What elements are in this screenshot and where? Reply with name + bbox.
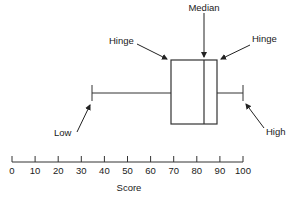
low-arrow [77,105,90,132]
axis-tick-label: 100 [235,165,251,176]
hinge-left-label: Hinge [109,35,134,46]
axis-tick-label: 0 [9,165,14,176]
axis-tick-label: 90 [215,165,226,176]
axis-tick-label: 40 [99,165,110,176]
axis-title: Score [117,182,142,193]
hinge-right-label: Hinge [252,33,277,44]
low-label: Low [54,127,72,138]
axis-tick-label: 20 [53,165,64,176]
axis-tick-label: 60 [145,165,156,176]
box-plot-diagram: Median Hinge Hinge Low High 010203040506… [0,0,291,199]
axis-tick-label: 10 [30,165,41,176]
hinge-left-arrow [137,44,167,59]
high-label: High [266,126,286,137]
axis-tick-label: 70 [168,165,179,176]
high-arrow [246,104,264,128]
axis-tick-label: 50 [122,165,133,176]
hinge-right-arrow [221,45,250,59]
axis-tick-labels: 0102030405060708090100 [9,165,251,176]
score-axis: 0102030405060708090100 Score [9,156,251,193]
axis-ticks [12,156,243,162]
axis-tick-label: 80 [192,165,203,176]
axis-tick-label: 30 [76,165,87,176]
interquartile-box [171,60,217,124]
median-label: Median [188,2,219,13]
